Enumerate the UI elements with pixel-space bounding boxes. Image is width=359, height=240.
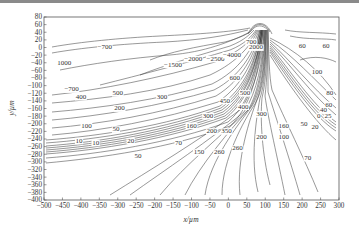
x-tick-label: 100: [260, 202, 271, 210]
contour-label: −700: [98, 43, 113, 51]
x-tick-label: −250: [129, 202, 144, 210]
contour-label: 260: [214, 148, 225, 156]
contour-label: 300: [157, 93, 168, 101]
contour-label: 2000: [249, 43, 264, 51]
x-tick-label: −200: [147, 202, 162, 210]
contour-label: 160: [186, 122, 197, 130]
contour-label: 100: [312, 68, 323, 76]
x-tick-label: −350: [92, 202, 107, 210]
contour-label: 80: [326, 89, 334, 97]
contour-label: 260: [232, 144, 243, 152]
x-tick-label: −150: [166, 202, 181, 210]
contour-label: 0: [317, 112, 321, 120]
x-tick-label: 0: [227, 202, 231, 210]
x-tick-label: 300: [334, 202, 345, 210]
contour-label: 100: [81, 122, 92, 130]
contour-lines: [46, 24, 336, 196]
x-tick-label: 200: [297, 202, 308, 210]
contour-chart: −500−450−400−350−300−250−200−150−100−500…: [0, 0, 359, 240]
contour-label: 200: [256, 133, 267, 141]
contour-labels: −7001000−1500−2000−2500−4000700200060601…: [57, 38, 334, 162]
contour-label: 60: [323, 42, 331, 50]
x-tick-label: 250: [315, 202, 326, 210]
contour-label: 60: [299, 42, 307, 50]
contour-label: 50: [135, 152, 143, 160]
contour-label: 600: [229, 74, 240, 82]
y-axis-title: y/µm: [7, 100, 16, 117]
x-tick-label: −450: [55, 202, 70, 210]
x-tick-label: 150: [278, 202, 289, 210]
contour-label: −1500: [164, 61, 182, 69]
contour-label: 400: [238, 103, 249, 111]
x-tick-label: 50: [243, 202, 251, 210]
axis-ticks: −500−450−400−350−300−250−200−150−100−500…: [27, 13, 345, 210]
contour-label: 20: [127, 137, 135, 145]
contour-label: 200: [207, 127, 218, 135]
contour-label: 10: [76, 137, 84, 145]
contour-label: 400: [76, 93, 87, 101]
contour-label: 160: [278, 122, 289, 130]
contour-label: 10: [92, 139, 100, 147]
x-tick-label: −50: [204, 202, 216, 210]
x-tick-label: −400: [73, 202, 88, 210]
x-tick-label: −300: [110, 202, 125, 210]
contour-label: −4000: [223, 51, 241, 59]
y-tick-label: −400: [27, 196, 42, 204]
x-tick-label: −100: [184, 202, 199, 210]
contour-label: 150: [194, 148, 205, 156]
x-axis-title: x/µm: [182, 215, 199, 224]
contour-label: 70: [304, 154, 312, 162]
contour-label: 350: [221, 127, 232, 135]
contour-label: 500: [240, 89, 251, 97]
contour-label: 200: [114, 104, 125, 112]
contour-label: 25: [324, 112, 332, 120]
contour-label: 70: [175, 139, 183, 147]
contour-label: 50: [300, 120, 308, 128]
contour-label: −2000: [184, 55, 202, 63]
contour-label: 300: [256, 110, 267, 118]
contour-label: 50: [112, 125, 120, 133]
contour-label: 300: [203, 112, 214, 120]
contour-label: 100: [278, 133, 289, 141]
contour-label: 500: [113, 89, 124, 97]
contour-label: 20: [312, 123, 320, 131]
contour-label: 1000: [57, 59, 72, 67]
contour-label: 450: [219, 97, 230, 105]
